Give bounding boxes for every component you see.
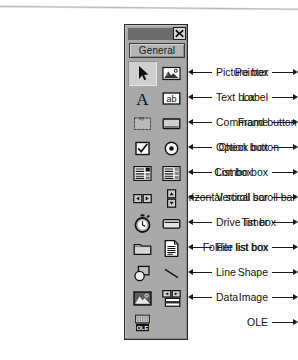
leader-arrow — [188, 144, 212, 151]
annotation-left-ole: OLE — [174, 317, 298, 328]
leader-arrow — [272, 319, 298, 326]
annotation-right-data: Data — [188, 292, 298, 303]
vertical-scroll-bar-icon — [162, 189, 181, 208]
toolbox-tool-pointer[interactable] — [128, 61, 157, 86]
toolbox-tool-combo-box[interactable] — [128, 161, 157, 186]
leader-arrow — [188, 69, 212, 76]
annotation-right-option-button: Option button — [188, 142, 298, 153]
toolbox-row: OLE — [128, 311, 186, 336]
leader-arrow — [188, 294, 212, 301]
ole-icon: OLE — [133, 314, 152, 333]
toolbox-tool-drive-list-box[interactable] — [157, 211, 186, 236]
leader-arrow — [188, 219, 212, 226]
data-icon — [162, 289, 181, 308]
leader-arrow — [188, 169, 212, 176]
timer-icon — [133, 214, 152, 233]
drive-list-box-icon — [162, 214, 181, 233]
svg-text:OLE: OLE — [137, 325, 149, 331]
annotation-label: Picture box — [216, 67, 269, 78]
toolbox-tool-horizontal-scroll-bar[interactable] — [128, 186, 157, 211]
toolbox-tool-folder-list-box[interactable] — [128, 236, 157, 261]
line-icon — [162, 264, 181, 283]
toolbox-tool-shape[interactable] — [128, 261, 157, 286]
toolbox-row: xy — [128, 111, 186, 136]
label-icon: A — [133, 89, 152, 108]
picture-box-icon — [162, 64, 181, 83]
leader-arrow — [188, 94, 212, 101]
toolbox-row — [128, 186, 186, 211]
option-button-icon — [162, 139, 181, 158]
annotation-right-list-box: List box — [188, 167, 298, 178]
annotation-label: Line — [216, 267, 236, 278]
toolbox-row — [128, 61, 186, 86]
toolbox-tool-text-box[interactable]: ab — [157, 86, 186, 111]
toolbox-titlebar — [128, 28, 186, 40]
tab-general[interactable]: General — [129, 43, 185, 58]
toolbox-row — [128, 261, 186, 286]
svg-text:A: A — [136, 90, 149, 108]
toolbox-tool-timer[interactable] — [128, 211, 157, 236]
annotation-right-drive-list-box: Drive list box — [188, 217, 298, 228]
frame-icon: xy — [133, 114, 152, 133]
toolbox-row: Aab — [128, 86, 186, 111]
pointer-icon — [133, 64, 152, 83]
shape-icon — [133, 264, 152, 283]
annotation-right-command-button: Command button — [188, 117, 298, 128]
toolbox-tool-image[interactable] — [128, 286, 157, 311]
image-icon — [133, 289, 152, 308]
svg-text:ab: ab — [166, 94, 176, 104]
toolbox-tool-option-button[interactable] — [157, 136, 186, 161]
command-button-icon — [162, 114, 181, 133]
toolbox-tool-label[interactable]: A — [128, 86, 157, 111]
close-icon[interactable] — [173, 27, 186, 40]
toolbox-row — [128, 236, 186, 261]
toolbox-tool-line[interactable] — [157, 261, 186, 286]
annotation-label: File list box — [216, 242, 269, 253]
toolbox-tool-vertical-scroll-bar[interactable] — [157, 186, 186, 211]
leader-arrow — [188, 269, 212, 276]
toolbox-tool-picture-box[interactable] — [157, 61, 186, 86]
annotation-label: Drive list box — [216, 217, 276, 228]
annotation-label: OLE — [247, 317, 268, 328]
file-list-box-icon — [162, 239, 181, 258]
toolbox-tool-list-box[interactable] — [157, 161, 186, 186]
combo-box-icon — [133, 164, 152, 183]
toolbox-row — [128, 211, 186, 236]
annotation-right-line: Line — [188, 267, 298, 278]
annotation-label: Option button — [216, 142, 279, 153]
annotation-label: Vertical scroll bar — [216, 192, 296, 203]
annotation-right-picture-box: Picture box — [188, 67, 298, 78]
svg-text:xy: xy — [139, 116, 144, 121]
annotation-label: Text box — [216, 92, 255, 103]
toolbox-tool-ole[interactable]: OLE — [128, 311, 157, 336]
toolbox-window: General AabxyOLE — [124, 24, 188, 340]
toolbox-row — [128, 136, 186, 161]
check-box-icon — [133, 139, 152, 158]
annotation-right-vertical-scroll-bar: Vertical scroll bar — [188, 192, 298, 203]
toolbox-tool-file-list-box[interactable] — [157, 236, 186, 261]
horizontal-scroll-bar-icon — [133, 189, 152, 208]
annotation-label: List box — [216, 167, 252, 178]
annotation-label: Data — [216, 292, 238, 303]
annotation-right-file-list-box: File list box — [188, 242, 298, 253]
toolbox-row — [128, 161, 186, 186]
toolbox-tool-command-button[interactable] — [157, 111, 186, 136]
toolbox-tool-check-box[interactable] — [128, 136, 157, 161]
toolbox-tool-frame[interactable]: xy — [128, 111, 157, 136]
toolbox-row — [128, 286, 186, 311]
text-box-icon: ab — [162, 89, 181, 108]
leader-arrow — [188, 119, 212, 126]
annotation-right-text-box: Text box — [188, 92, 298, 103]
leader-arrow — [188, 194, 212, 201]
toolbox-icon-grid: AabxyOLE — [128, 61, 186, 336]
list-box-icon — [162, 164, 181, 183]
leader-arrow — [188, 244, 212, 251]
folder-list-box-icon — [133, 239, 152, 258]
page-top-rule — [0, 5, 298, 11]
annotation-label: Command button — [216, 117, 297, 128]
toolbox-tool-data[interactable] — [157, 286, 186, 311]
